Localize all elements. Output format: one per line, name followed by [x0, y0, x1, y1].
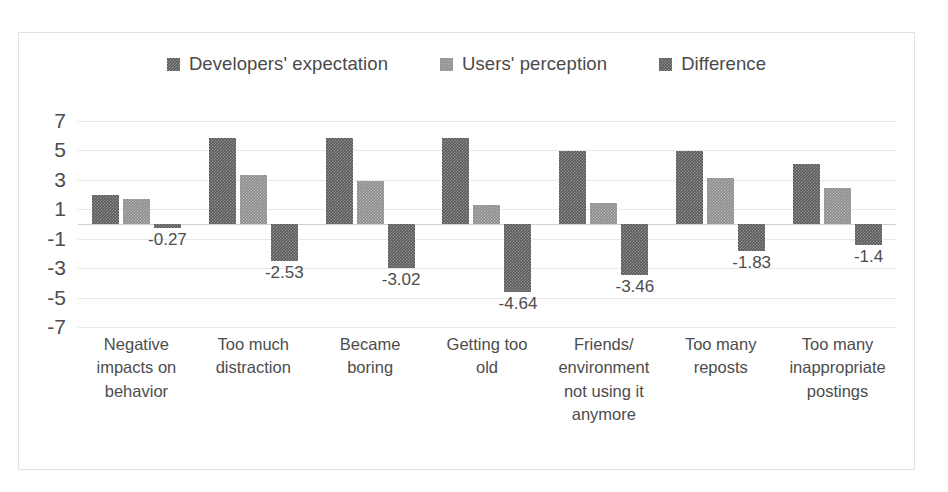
bar-group: -3.02 [312, 121, 429, 327]
category-label-line: Too many [662, 333, 779, 356]
category-label-line: behavior [78, 380, 195, 403]
legend-label: Difference [681, 53, 766, 75]
category-label-line: environment [545, 356, 662, 379]
bar-value-label: -1.83 [732, 253, 771, 273]
y-axis-tick-label: 1 [54, 197, 66, 221]
category-label: Too manyreposts [662, 333, 779, 380]
category-label: Becameboring [312, 333, 429, 380]
y-axis-tick-label: -7 [47, 315, 66, 339]
bar-value-label: -3.02 [382, 270, 421, 290]
bar-group: -3.46 [545, 121, 662, 327]
category-axis-labels: Negativeimpacts onbehaviorToo muchdistra… [78, 333, 896, 463]
legend-label: Developers' expectation [189, 53, 388, 75]
bar-group: -2.53 [195, 121, 312, 327]
bar[interactable] [123, 199, 150, 224]
bar[interactable] [676, 151, 703, 224]
chart-container: Developers' expectationUsers' perception… [18, 32, 915, 470]
bar[interactable] [326, 138, 353, 224]
bar[interactable] [92, 195, 119, 224]
y-axis-tick-label: 7 [54, 109, 66, 133]
category-label-line: Too much [195, 333, 312, 356]
bar[interactable] [442, 138, 469, 224]
y-axis-tick-label: -5 [47, 286, 66, 310]
bar[interactable] [154, 224, 181, 228]
category-label-line: reposts [662, 356, 779, 379]
bar[interactable] [559, 151, 586, 224]
bar[interactable] [209, 138, 236, 224]
legend-swatch-icon [659, 58, 672, 71]
category-label: Negativeimpacts onbehavior [78, 333, 195, 403]
category-label: Getting tooold [429, 333, 546, 380]
bar-value-label: -4.64 [499, 294, 538, 314]
bar[interactable] [271, 224, 298, 261]
category-label-line: old [429, 356, 546, 379]
category-label-line: not using it [545, 380, 662, 403]
bar-value-label: -3.46 [615, 277, 654, 297]
y-axis-tick-label: 5 [54, 138, 66, 162]
category-label-line: Getting too [429, 333, 546, 356]
legend-entry[interactable]: Users' perception [440, 53, 607, 75]
gridline [78, 327, 896, 328]
bar[interactable] [590, 203, 617, 224]
bar[interactable] [504, 224, 531, 292]
category-label-line: Negative [78, 333, 195, 356]
category-label-line: Became [312, 333, 429, 356]
bar-value-label: -2.53 [265, 263, 304, 283]
y-axis-tick-label: -1 [47, 227, 66, 251]
bar[interactable] [240, 175, 267, 224]
plot-area: 7531-1-3-5-7-0.27-2.53-3.02-4.64-3.46-1.… [78, 121, 896, 327]
y-axis-tick-label: 3 [54, 168, 66, 192]
y-axis-tick-label: -3 [47, 256, 66, 280]
legend-entry[interactable]: Developers' expectation [167, 53, 388, 75]
chart-legend: Developers' expectationUsers' perception… [19, 53, 914, 75]
legend-swatch-icon [167, 58, 180, 71]
bar[interactable] [473, 205, 500, 224]
bar-group: -1.4 [779, 121, 896, 327]
bar[interactable] [621, 224, 648, 275]
bar[interactable] [824, 188, 851, 224]
legend-swatch-icon [440, 58, 453, 71]
legend-entry[interactable]: Difference [659, 53, 766, 75]
category-label-line: boring [312, 356, 429, 379]
category-label: Too muchdistraction [195, 333, 312, 380]
bar-value-label: -0.27 [148, 230, 187, 250]
category-label-line: distraction [195, 356, 312, 379]
bar[interactable] [793, 164, 820, 224]
bar-group: -4.64 [429, 121, 546, 327]
bar[interactable] [388, 224, 415, 268]
category-label-line: impacts on [78, 356, 195, 379]
bar-group: -1.83 [662, 121, 779, 327]
category-label-line: postings [779, 380, 896, 403]
bar[interactable] [855, 224, 882, 245]
bar[interactable] [357, 181, 384, 224]
category-label-line: anymore [545, 403, 662, 426]
category-label-line: Too many [779, 333, 896, 356]
category-label: Too manyinappropriatepostings [779, 333, 896, 403]
legend-label: Users' perception [462, 53, 607, 75]
bar[interactable] [738, 224, 765, 251]
bar-group: -0.27 [78, 121, 195, 327]
plot-wrapper: 7531-1-3-5-7-0.27-2.53-3.02-4.64-3.46-1.… [78, 121, 896, 327]
category-label-line: Friends/ [545, 333, 662, 356]
category-label: Friends/environmentnot using itanymore [545, 333, 662, 427]
bar-value-label: -1.4 [854, 247, 883, 267]
bar[interactable] [707, 178, 734, 224]
category-label-line: inappropriate [779, 356, 896, 379]
